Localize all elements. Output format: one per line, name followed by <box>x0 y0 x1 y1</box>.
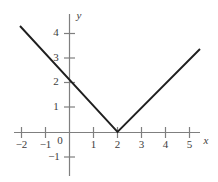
x-axis-label: x <box>203 134 209 146</box>
plot-background <box>0 0 218 182</box>
graph-figure: −2 −1 1 2 3 4 5 0 4 3 2 1 −1 y x <box>0 0 218 182</box>
y-tick-label-neg1: −1 <box>48 150 60 162</box>
x-tick-label-5: 5 <box>187 138 193 150</box>
x-tick-label-neg2: −2 <box>16 138 28 150</box>
y-tick-label-2: 2 <box>53 75 59 87</box>
x-tick-label-3: 3 <box>139 138 145 150</box>
y-tick-label-3: 3 <box>53 51 59 63</box>
x-tick-label-4: 4 <box>163 138 169 150</box>
y-axis-label: y <box>76 9 82 21</box>
coordinate-plot: −2 −1 1 2 3 4 5 0 4 3 2 1 −1 y x <box>0 0 218 182</box>
x-tick-label-1: 1 <box>91 138 97 150</box>
x-tick-label-2: 2 <box>115 138 121 150</box>
origin-label: 0 <box>57 134 63 146</box>
x-tick-label-neg1: −1 <box>40 138 52 150</box>
y-tick-label-1: 1 <box>53 100 59 112</box>
y-tick-label-4: 4 <box>53 26 59 38</box>
